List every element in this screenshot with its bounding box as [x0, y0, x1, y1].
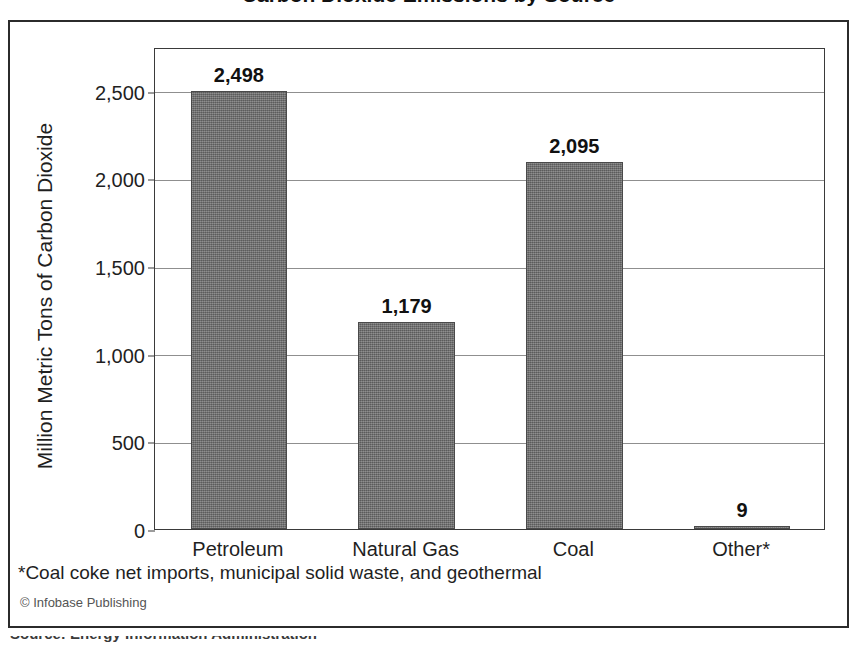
- x-axis-category-label: Coal: [553, 538, 594, 561]
- y-axis-tick-mark: [148, 180, 155, 181]
- y-axis-tick-mark: [148, 268, 155, 269]
- bar: [191, 91, 287, 529]
- y-axis-tick-label: 1,500: [95, 257, 145, 280]
- y-axis-tick-mark: [148, 92, 155, 93]
- y-axis-tick-label: 2,500: [95, 81, 145, 104]
- figure-container: Million Metric Tons of Carbon Dioxide 05…: [8, 20, 849, 628]
- x-axis-category-label: Other*: [712, 538, 770, 561]
- bar-value-label: 2,095: [549, 135, 599, 158]
- cropped-caption-region: Source: Energy Information Administratio…: [0, 636, 857, 650]
- y-axis-tick-label: 500: [112, 432, 145, 455]
- y-axis-tick-mark: [148, 531, 155, 532]
- y-axis-tick-label: 2,000: [95, 169, 145, 192]
- x-axis-category-label: Natural Gas: [352, 538, 459, 561]
- footnote: *Coal coke net imports, municipal solid …: [18, 562, 542, 584]
- figure-title: Carbon Dioxide Emissions by Source: [0, 0, 857, 7]
- plot-area: 05001,0001,5002,0002,500 2,4981,1792,095…: [154, 48, 825, 530]
- y-axis-tick-mark: [148, 355, 155, 356]
- cropped-title-region: Carbon Dioxide Emissions by Source: [0, 0, 857, 18]
- bar-value-label: 1,179: [382, 295, 432, 318]
- y-axis-title: Million Metric Tons of Carbon Dioxide: [33, 46, 57, 546]
- y-axis-tick-label: 1,000: [95, 344, 145, 367]
- bar-value-label: 2,498: [214, 64, 264, 87]
- bar: [694, 526, 790, 529]
- y-axis-tick-mark: [148, 443, 155, 444]
- bar: [526, 162, 622, 529]
- y-axis-tick-label: 0: [134, 520, 145, 543]
- figure-caption: Source: Energy Information Administratio…: [10, 636, 317, 642]
- copyright-notice: © Infobase Publishing: [20, 595, 147, 610]
- bar: [358, 322, 454, 529]
- x-axis-category-label: Petroleum: [192, 538, 283, 561]
- bar-value-label: 9: [737, 499, 748, 522]
